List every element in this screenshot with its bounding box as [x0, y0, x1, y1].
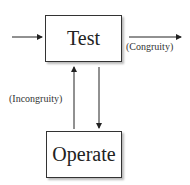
test-node: Test — [45, 15, 122, 62]
incongruity-label: (Incongruity) — [9, 93, 62, 104]
operate-label: Operate — [52, 143, 115, 166]
operate-node: Operate — [46, 131, 122, 178]
test-label: Test — [67, 27, 100, 50]
congruity-label: (Congruity) — [126, 41, 173, 52]
